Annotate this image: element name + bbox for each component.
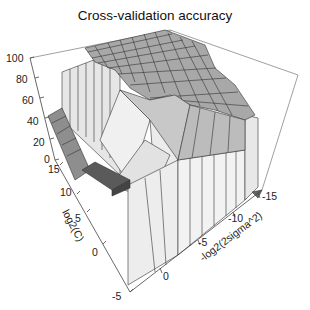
z-tick-20: 20 bbox=[33, 136, 45, 148]
x-tick-0: 0 bbox=[163, 270, 169, 282]
x-tick-neg15: -15 bbox=[262, 190, 277, 202]
y-axis-label: log2(C) bbox=[60, 207, 87, 243]
z-tick-100: 100 bbox=[6, 52, 24, 64]
y-tick-10: 10 bbox=[60, 186, 72, 198]
y-tick-0: 0 bbox=[92, 246, 98, 258]
z-tick-80: 80 bbox=[16, 73, 28, 85]
y-tick-15: 15 bbox=[48, 163, 60, 175]
surface-plot: 100 80 60 40 20 0 15 10 5 0 -5 log2(C) -… bbox=[0, 0, 310, 310]
y-tick-neg5: -5 bbox=[112, 290, 121, 302]
z-tick-60: 60 bbox=[22, 94, 34, 106]
z-tick-labels: 100 80 60 40 20 0 bbox=[6, 52, 50, 165]
z-tick-40: 40 bbox=[27, 115, 39, 127]
